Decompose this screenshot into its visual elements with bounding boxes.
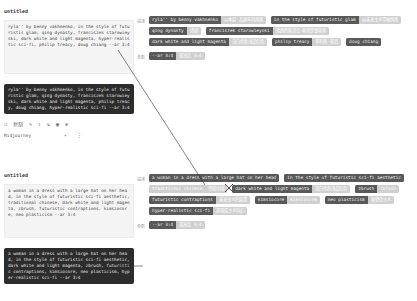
tag-english: in the style of futuristic glam: [271, 16, 359, 24]
upload-icon[interactable]: ↑: [38, 121, 41, 127]
tag-translation: 清朝: [187, 27, 201, 35]
tag-list: ryla'' by benny vakhnenko以本尼·瓦赫年科风格in th…: [149, 16, 415, 46]
prompt-tag[interactable]: in the style of futuristic sci-fi aesthe…: [284, 174, 404, 182]
tag-translation: 宽高比 3:4: [176, 221, 205, 229]
prompt-card-2: untitled a woman in a dress with a large…: [4, 172, 134, 284]
tag-english: zbrush: [355, 185, 377, 193]
copy-button[interactable]: 复制: [13, 120, 23, 127]
row-label: 参数: [137, 221, 149, 229]
edit-icon[interactable]: ✎: [29, 121, 32, 127]
row-label: 参数: [137, 52, 149, 60]
prompt-output: ryla'' by benny vakhnenko, in the style …: [4, 84, 134, 114]
tag-english: traditional chinese: [149, 185, 205, 193]
prompt-tag[interactable]: in the style of futuristic glam以未来主义华丽风格: [271, 16, 401, 24]
tag-row-description: 描述 a woman in a dress with a large hat o…: [137, 174, 415, 215]
tag-english: dark white and light magenta: [232, 185, 312, 193]
tag-english: futuristic contraptions: [149, 196, 216, 204]
card-title: untitled: [4, 172, 134, 178]
row-label: 描述: [137, 16, 149, 24]
tag-section-1: 描述 ryla'' by benny vakhnenko以本尼·瓦赫年科风格in…: [137, 16, 415, 66]
refresh-icon[interactable]: ↻: [47, 121, 50, 127]
prompt-tag[interactable]: dark white and light magenta深白色和浅品红色: [149, 38, 267, 46]
chevron-down-icon[interactable]: ▾: [64, 133, 67, 138]
tag-translation: kimsiocore: [287, 196, 319, 204]
tag-translation: zbrush: [377, 185, 399, 193]
tag-english: ryla'' by benny vakhnenko: [149, 16, 221, 24]
tag-row-description: 描述 ryla'' by benny vakhnenko以本尼·瓦赫年科风格in…: [137, 16, 415, 46]
tag-english: neo plasticism: [325, 196, 368, 204]
tag-english: philip treacy: [272, 38, 312, 46]
prompt-tag[interactable]: dark white and light magenta深白色和浅品红色: [232, 185, 350, 193]
prompt-tag[interactable]: a woman in a dress with a large hat on h…: [149, 174, 279, 182]
tag-translation: 以未来主义华丽风格: [359, 16, 401, 24]
card-toolbar: ❐ 复制 ✎ ↑ ↻ ▣ ⊗: [4, 120, 134, 127]
prompt-tag[interactable]: futuristic contraptions未来主义的装置: [149, 196, 250, 204]
prompt-tag[interactable]: --ar 3:4宽高比 3:4: [149, 221, 205, 229]
prompt-tag[interactable]: zbrushzbrush: [355, 185, 399, 193]
card-title: untitled: [4, 8, 134, 14]
prompt-card-1: untitled ryla'' by benny vakhnenko, in t…: [4, 8, 134, 138]
prompt-tag[interactable]: traditional chinese传统中国: [149, 185, 227, 193]
tag-row-params: 参数 --ar 3:4宽高比 3:4: [137, 52, 415, 60]
delete-icon[interactable]: ⊗: [65, 121, 68, 127]
prompt-input[interactable]: a woman in a dress with a large hat on h…: [4, 184, 134, 238]
tag-english: hyper-realistic sci-fi: [149, 207, 213, 215]
tag-translation: 未来主义的装置: [216, 196, 250, 204]
tag-translation: 宽高比 3:4: [176, 52, 205, 60]
tag-translation: 深白色和浅品红色: [229, 38, 267, 46]
save-icon[interactable]: ▣: [56, 121, 59, 127]
copy-icon[interactable]: ❐: [4, 121, 7, 127]
tag-english: in the style of futuristic sci-fi aesthe…: [284, 174, 404, 182]
prompt-tag[interactable]: franciszek starowieyski弗朗西斯泽克·斯塔罗维斯基: [206, 27, 329, 35]
tag-english: a woman in a dress with a large hat on h…: [149, 174, 279, 182]
prompt-tag[interactable]: hyper-realistic sci-fi超现实主义科幻: [149, 207, 247, 215]
tag-list: --ar 3:4宽高比 3:4: [149, 221, 415, 229]
tag-english: --ar 3:4: [149, 52, 176, 60]
tag-translation: 菲利普·崔西: [312, 38, 341, 46]
tag-translation: 传统中国: [205, 185, 227, 193]
row-label: 描述: [137, 174, 149, 182]
tag-section-2: 描述 a woman in a dress with a large hat o…: [137, 174, 415, 235]
tag-translation: 弗朗西斯泽克·斯塔罗维斯基: [273, 27, 330, 35]
tag-translation: 深白色和浅品红色: [312, 185, 350, 193]
tag-english: franciszek starowieyski: [206, 27, 273, 35]
prompt-tag[interactable]: neo plasticism新塑造主义: [325, 196, 394, 204]
model-name: Midjourney: [4, 133, 54, 138]
prompt-input[interactable]: ryla'' by benny vakhnenko, in the style …: [4, 20, 134, 74]
tag-translation: 以本尼·瓦赫年科风格: [221, 16, 266, 24]
prompt-tag[interactable]: kimsiocorekimsiocore: [255, 196, 320, 204]
prompt-tag[interactable]: philip treacy菲利普·崔西: [272, 38, 341, 46]
tag-english: kimsiocore: [255, 196, 287, 204]
model-selector[interactable]: Midjourney ▾ ⋮: [4, 133, 134, 138]
tag-list: a woman in a dress with a large hat on h…: [149, 174, 415, 215]
tag-english: qing dynasty: [149, 27, 187, 35]
tag-row-params: 参数 --ar 3:4宽高比 3:4: [137, 221, 415, 229]
tag-english: --ar 3:4: [149, 221, 176, 229]
tag-english: dark white and light magenta: [149, 38, 229, 46]
prompt-tag[interactable]: --ar 3:4宽高比 3:4: [149, 52, 205, 60]
prompt-tag[interactable]: doug chiang: [346, 38, 381, 46]
tag-english: doug chiang: [346, 38, 381, 46]
more-icon[interactable]: ⋮: [77, 133, 82, 138]
prompt-tag[interactable]: ryla'' by benny vakhnenko以本尼·瓦赫年科风格: [149, 16, 266, 24]
prompt-tag[interactable]: qing dynasty清朝: [149, 27, 201, 35]
prompt-output: a woman in a dress with a large hat on h…: [4, 248, 134, 284]
tag-list: --ar 3:4宽高比 3:4: [149, 52, 415, 60]
tag-translation: 新塑造主义: [368, 196, 394, 204]
tag-translation: 超现实主义科幻: [213, 207, 247, 215]
